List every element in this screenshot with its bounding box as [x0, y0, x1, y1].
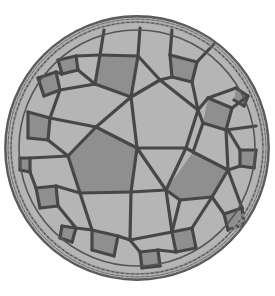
tiling-svg	[0, 0, 275, 296]
hyperbolic-tiling-diagram	[0, 0, 275, 296]
